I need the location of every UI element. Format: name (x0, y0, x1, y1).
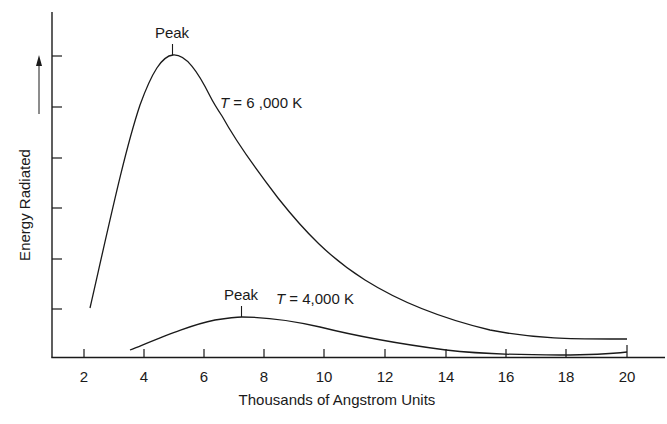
arrow-up-icon (36, 55, 42, 114)
x-tick-label: 10 (316, 368, 333, 385)
y-axis-title: Energy Radiated (16, 149, 33, 261)
x-tick-label: 18 (558, 368, 575, 385)
x-tick-label: 6 (200, 368, 208, 385)
x-tick-label: 4 (140, 368, 148, 385)
x-tick-label: 2 (80, 368, 88, 385)
series-label-6000k: T = 6 ,000 K (220, 94, 302, 111)
x-tick-label: 16 (498, 368, 515, 385)
series-label-value: = 4,000 K (285, 290, 354, 307)
x-tick-label: 8 (260, 368, 268, 385)
x-axis-title: Thousands of Angstrom Units (239, 391, 436, 408)
curve-6000k (90, 55, 627, 339)
x-tick-labels: 2 4 6 8 10 12 14 16 18 20 (80, 368, 636, 385)
x-tick-label: 20 (619, 368, 636, 385)
series-label-4000k: T = 4,000 K (276, 290, 354, 307)
peak-label-4000k: Peak (224, 286, 259, 303)
x-tick-label: 14 (438, 368, 455, 385)
series-label-value: = 6 ,000 K (229, 94, 302, 111)
y-ticks (52, 56, 62, 309)
blackbody-chart: 2 4 6 8 10 12 14 16 18 20 Thousands of A… (0, 0, 667, 424)
x-tick-label: 12 (377, 368, 394, 385)
peak-label-6000k: Peak (155, 24, 190, 41)
